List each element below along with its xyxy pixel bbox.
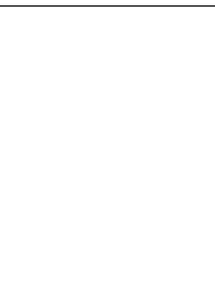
membrane-diagram [0, 0, 215, 296]
